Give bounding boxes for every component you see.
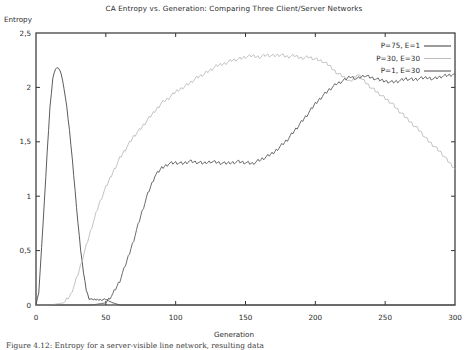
y-tick-label: 0,5 [3, 246, 31, 255]
figure-caption: Figure 4.12: Entropy for a server-visibl… [6, 341, 264, 350]
plot-area [0, 0, 468, 350]
x-axis-label: Generation [0, 330, 468, 339]
legend-item-1: P=75, E=1 [300, 41, 420, 50]
y-tick-label: 0 [3, 301, 31, 310]
legend-label: P=75, E=1 [381, 41, 420, 50]
x-tick-label: 50 [91, 313, 121, 322]
x-tick-label: 200 [300, 313, 330, 322]
y-tick-label: 1,5 [3, 137, 31, 146]
x-tick-label: 150 [231, 313, 261, 322]
y-tick-label: 2 [3, 83, 31, 92]
series-line-2 [36, 54, 455, 305]
y-tick-label: 1 [3, 192, 31, 201]
series-line-3 [36, 74, 455, 305]
x-tick-label: 300 [440, 313, 468, 322]
legend-item-2: P=30, E=30 [300, 54, 420, 63]
x-tick-label: 0 [21, 313, 51, 322]
x-tick-label: 100 [161, 313, 191, 322]
chart-figure: CA Entropy vs. Generation: Comparing Thr… [0, 0, 468, 350]
legend-label: P=30, E=30 [376, 54, 420, 63]
x-tick-label: 250 [370, 313, 400, 322]
legend-item-3: P=1, E=30 [300, 66, 420, 75]
y-tick-label: 2,5 [3, 29, 31, 38]
legend-label: P=1, E=30 [381, 66, 420, 75]
